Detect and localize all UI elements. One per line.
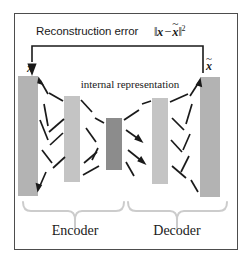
autoencoder-diagram-image: Reconstruction error ‖x−~x‖2 x ~x intern… <box>0 0 251 263</box>
bottleneck-layer-bar <box>106 118 122 170</box>
input-symbol-text: x <box>27 61 33 75</box>
decoder-connection-arrows <box>170 78 202 193</box>
internal-representation-label: internal representation <box>80 78 180 91</box>
output-symbol-group: ~x <box>206 60 212 72</box>
output-symbol-label: ~x <box>206 60 212 72</box>
encoder-brace <box>23 202 124 220</box>
output-layer-bar <box>200 77 220 197</box>
bottleneck-input-arrows <box>81 100 104 175</box>
reconstruction-error-bracket <box>27 46 203 76</box>
input-symbol-label: x <box>27 62 33 74</box>
formula-minus: − <box>163 25 172 39</box>
reconstruction-error-label: Reconstruction error <box>36 26 138 38</box>
formula-recon-symbol-group: ~x <box>172 26 178 39</box>
encoder-hidden-layer-bar <box>64 96 80 182</box>
formula-tilde: ~ <box>172 19 178 31</box>
bottleneck-output-arrows <box>124 101 151 176</box>
decoder-brace <box>128 202 227 220</box>
output-tilde: ~ <box>206 53 212 64</box>
decoder-label: Decoder <box>134 224 220 238</box>
reconstruction-error-formula: ‖x−~x‖2 <box>154 25 186 39</box>
decoder-hidden-layer-bar <box>152 98 168 184</box>
formula-exponent: 2 <box>182 24 186 33</box>
encoder-connection-arrows <box>36 77 65 193</box>
encoder-label: Encoder <box>32 224 118 238</box>
input-layer-bar <box>18 76 38 196</box>
